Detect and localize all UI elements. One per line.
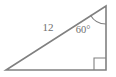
triangle-figure: 12 60° bbox=[0, 0, 116, 77]
triangle-drawing bbox=[0, 0, 116, 77]
angle-measure-label: 60° bbox=[76, 25, 91, 36]
hypotenuse-length-label: 12 bbox=[43, 22, 54, 33]
right-angle-marker-icon bbox=[94, 58, 106, 70]
angle-arc-60 bbox=[90, 15, 106, 24]
